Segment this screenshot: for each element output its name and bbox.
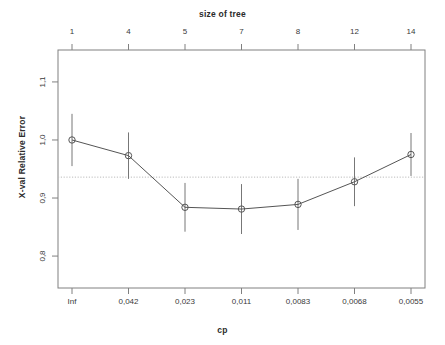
plot-frame bbox=[58, 50, 425, 288]
plot-canvas bbox=[0, 0, 445, 345]
rpart-cp-plot: size of tree cp X-val Relative Error 145… bbox=[0, 0, 445, 345]
